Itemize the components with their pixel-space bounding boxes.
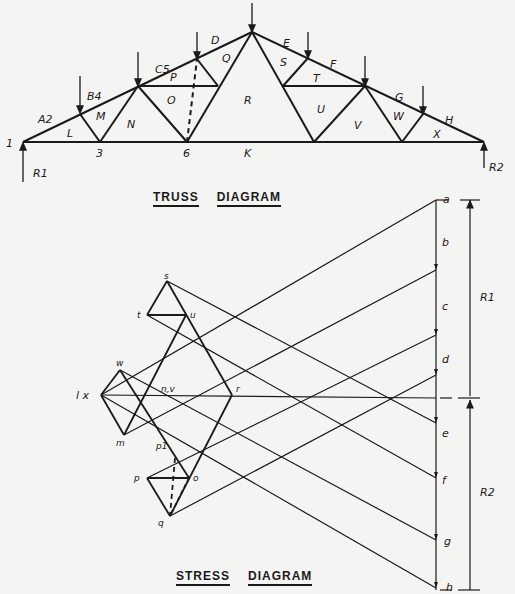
stress-diagram-title: STRESSDIAGRAM bbox=[176, 569, 330, 583]
label-c: c bbox=[442, 300, 448, 313]
label-nv: n,v bbox=[161, 384, 176, 394]
title-word: DIAGRAM bbox=[217, 190, 281, 207]
label-H: H bbox=[445, 114, 453, 127]
label-o: o bbox=[193, 473, 199, 483]
label-d: d bbox=[442, 353, 450, 366]
label-R: R bbox=[244, 94, 252, 107]
reaction-label-R1: R1 bbox=[33, 167, 48, 180]
label-w: w bbox=[116, 358, 124, 368]
label-V: V bbox=[354, 119, 363, 132]
label-g: g bbox=[444, 535, 451, 548]
label-X: X bbox=[432, 128, 441, 141]
label-b: b bbox=[442, 236, 449, 249]
node-label-1: 1 bbox=[6, 137, 13, 150]
label-E: E bbox=[283, 37, 290, 50]
label-U: U bbox=[317, 103, 325, 116]
label-P: P bbox=[170, 71, 177, 84]
reaction-label-R2: R2 bbox=[480, 486, 495, 499]
reaction-label-R2: R2 bbox=[489, 161, 504, 174]
label-C5: C5 bbox=[155, 63, 170, 76]
label-D: D bbox=[211, 34, 219, 47]
web-member bbox=[100, 86, 138, 142]
node-label-6: 6 bbox=[183, 147, 190, 160]
label-p: p bbox=[133, 473, 140, 483]
title-word: DIAGRAM bbox=[248, 569, 312, 586]
node-label-3: 3 bbox=[96, 147, 103, 160]
label-L: L bbox=[67, 127, 73, 140]
label-u: u bbox=[190, 310, 196, 320]
web-member bbox=[197, 59, 218, 86]
label-p1: p1 bbox=[155, 441, 167, 451]
label-m: m bbox=[116, 438, 125, 448]
label-q: q bbox=[158, 518, 164, 528]
label-B4: B4 bbox=[87, 90, 102, 103]
label-x: l x bbox=[76, 389, 90, 402]
label-O: O bbox=[167, 94, 176, 107]
truss-members bbox=[23, 32, 484, 142]
stress-lines bbox=[101, 200, 436, 588]
label-h: h bbox=[446, 581, 453, 594]
load-line bbox=[436, 200, 480, 590]
label-e: e bbox=[442, 427, 449, 440]
label-T: T bbox=[313, 72, 321, 85]
label-N: N bbox=[127, 118, 135, 131]
drawing-canvas: A2 B4 C5 D E F G H L M N O P Q R S T U V… bbox=[0, 0, 515, 594]
label-M: M bbox=[96, 110, 106, 123]
label-F: F bbox=[330, 58, 337, 71]
label-s: s bbox=[164, 271, 169, 281]
label-r: r bbox=[236, 384, 241, 394]
label-t: t bbox=[137, 310, 141, 320]
web-member bbox=[138, 86, 187, 142]
label-Q: Q bbox=[222, 52, 231, 65]
label-A2: A2 bbox=[37, 113, 53, 126]
web-member bbox=[402, 114, 423, 142]
label-G: G bbox=[395, 91, 404, 104]
label-a: a bbox=[443, 193, 450, 206]
label-f: f bbox=[442, 474, 448, 487]
truss-diagram-title: TRUSSDIAGRAM bbox=[153, 190, 299, 204]
stress-polygon bbox=[101, 281, 232, 516]
reaction-label-R1: R1 bbox=[480, 291, 495, 304]
label-W: W bbox=[393, 110, 405, 123]
label-K: K bbox=[244, 147, 252, 160]
title-word: TRUSS bbox=[153, 190, 199, 207]
label-S: S bbox=[280, 56, 287, 69]
title-word: STRESS bbox=[176, 569, 230, 586]
